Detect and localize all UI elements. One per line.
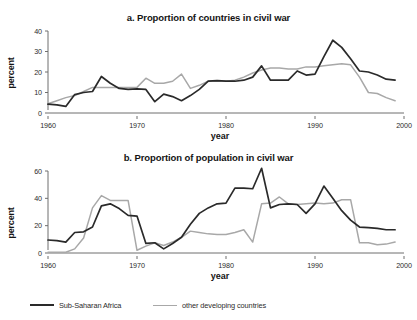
x-tick-label: 1970	[119, 121, 155, 130]
x-tick-label: 1970	[119, 261, 155, 270]
legend-label-sub-saharan-africa: Sub-Saharan Africa	[59, 301, 121, 310]
y-tick-label: 0	[8, 249, 42, 258]
legend-label-other-developing-countries: other developing countries	[182, 301, 266, 310]
x-tick-label: 1990	[297, 121, 333, 130]
legend-item-other-developing-countries: other developing countries	[153, 298, 266, 312]
y-tick-label: 10	[8, 88, 42, 97]
chart-b-x-ticks	[48, 256, 404, 259]
chart-a-series-sub-saharan-africa	[48, 40, 395, 106]
legend-line-icon-sub-saharan-africa	[30, 304, 54, 306]
x-tick-label: 1960	[30, 121, 66, 130]
x-tick-label: 1980	[208, 261, 244, 270]
legend-line-icon-other-developing-countries	[153, 305, 177, 306]
chart-a-plot-area: 010203040 19601970198019902000	[0, 0, 417, 148]
figure-root: a. Proportion of countries in civil war …	[0, 0, 417, 320]
chart-panel-a: a. Proportion of countries in civil war …	[0, 0, 417, 148]
x-tick-label: 1990	[297, 261, 333, 270]
chart-panel-b: b. Proportion of population in civil war…	[0, 148, 417, 288]
figure-legend: Sub-Saharan Africa other developing coun…	[0, 296, 417, 318]
chart-b-series-sub-saharan-africa	[48, 168, 395, 249]
chart-a-series-other-developing-countries	[48, 64, 395, 104]
chart-b-plot-area: 0204060 19601970198019902000	[0, 148, 417, 288]
y-tick-label: 20	[8, 68, 42, 77]
x-tick-label: 1980	[208, 121, 244, 130]
x-tick-label: 2000	[386, 121, 417, 130]
chart-a-x-ticks	[48, 116, 404, 119]
x-tick-label: 2000	[386, 261, 417, 270]
y-tick-label: 30	[8, 47, 42, 56]
y-tick-label: 0	[8, 109, 42, 118]
y-tick-label: 40	[8, 194, 42, 203]
y-tick-label: 20	[8, 221, 42, 230]
x-tick-label: 1960	[30, 261, 66, 270]
legend-item-sub-saharan-africa: Sub-Saharan Africa	[30, 298, 121, 312]
y-tick-label: 40	[8, 27, 42, 36]
y-tick-label: 60	[8, 167, 42, 176]
